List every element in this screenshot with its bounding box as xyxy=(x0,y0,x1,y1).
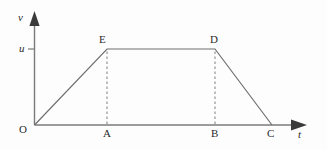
point-label-d: D xyxy=(210,34,218,45)
origin-label: O xyxy=(19,124,27,135)
velocity-curve xyxy=(35,49,273,125)
point-label-a: A xyxy=(103,128,111,139)
point-label-e: E xyxy=(99,34,106,45)
x-axis-label: t xyxy=(298,129,301,140)
y-axis-label: v xyxy=(18,12,23,23)
point-label-b: B xyxy=(211,128,218,139)
y-tick-label-u: u xyxy=(19,43,25,54)
point-label-c: C xyxy=(267,128,274,139)
graph-canvas xyxy=(0,0,327,149)
y-axis-arrow-icon xyxy=(29,11,39,26)
velocity-time-graph-figure: v u O E D A B C t xyxy=(0,0,327,149)
